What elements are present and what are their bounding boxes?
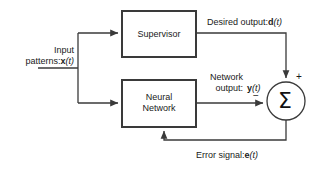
error-feedback-line: [164, 120, 286, 140]
error-signal-arg: (t): [250, 150, 259, 160]
network-output-line2: output:: [215, 83, 243, 93]
desired-output-label: Desired output:d(t): [207, 17, 282, 28]
plus-sign: +: [296, 72, 302, 82]
desired-output-prefix: Desired output:: [207, 17, 268, 27]
input-arg: (t): [66, 56, 75, 66]
input-patterns-label: Input patterns:x(t): [2, 45, 74, 67]
input-patterns-line2: patterns:: [25, 56, 60, 66]
sigma-symbol: Σ: [278, 90, 292, 112]
network-output-arg: (t): [252, 83, 261, 93]
network-output-line1: Network: [210, 72, 243, 82]
error-signal-label: Error signal:e(t): [196, 150, 258, 161]
error-signal-prefix: Error signal:: [196, 150, 245, 160]
neural-network-label-line2: Network: [142, 103, 175, 113]
supervisor-label: Supervisor: [122, 29, 196, 40]
input-patterns-line1: Input: [54, 45, 74, 55]
neural-network-label-line1: Neural: [146, 92, 173, 102]
desired-output-arg: (t): [274, 17, 283, 27]
neural-network-label: Neural Network: [122, 92, 196, 114]
network-output-symbol-group: y(t): [247, 83, 261, 94]
network-output-label: Network output:: [188, 72, 243, 94]
supervised-learning-diagram: Σ + − Supervisor Neural Network Input pa…: [0, 0, 319, 171]
